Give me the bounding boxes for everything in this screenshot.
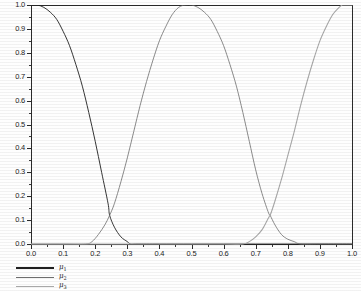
x-tick-minor [79,245,80,247]
y-tick-label: 0.6 [15,97,25,105]
x-tick-minor [304,245,305,247]
x-tick-minor [143,245,144,247]
x-tick-label: 0.5 [187,250,197,258]
legend-label-mu3: μ3 [59,281,67,291]
curve-μ2 [31,5,352,244]
legend: μ1 μ2 μ3 [16,264,126,290]
x-tick-label: 0.2 [90,250,100,258]
x-tick-minor [208,245,209,247]
y-tick-label: 0.2 [15,192,25,200]
legend-item-mu3[interactable]: μ3 [16,282,126,290]
plot-area [31,5,353,245]
y-tick-label: 0.8 [15,49,25,57]
y-tick-label: 0.7 [15,73,25,81]
x-tick-label: 0.1 [58,250,68,258]
x-tick-minor [336,245,337,247]
y-axis: 0.00.10.20.30.40.50.60.70.80.91.0 [0,0,31,245]
x-tick-label: 0.9 [315,250,325,258]
y-tick-label: 0.0 [15,240,25,248]
curve-group [31,5,353,245]
x-tick-minor [240,245,241,247]
y-tick-label: 0.9 [15,25,25,33]
x-tick-minor [175,245,176,247]
y-tick-label: 0.1 [15,216,25,224]
x-tick-label: 0.6 [219,250,229,258]
x-tick-label: 0.4 [154,250,164,258]
x-tick-label: 0.3 [122,250,132,258]
legend-swatch-mu3 [16,286,54,287]
legend-item-mu1[interactable]: μ1 [16,264,126,272]
legend-swatch-mu2 [16,277,54,278]
x-axis: 0.00.10.20.30.40.50.60.70.80.91.0 [31,245,353,261]
y-tick-label: 0.5 [15,121,25,129]
legend-swatch-mu1 [16,267,54,268]
x-tick-minor [272,245,273,247]
x-tick-label: 0.0 [26,250,36,258]
x-tick-minor [47,245,48,247]
curve-μ1 [31,5,352,244]
x-tick-minor [111,245,112,247]
legend-item-mu2[interactable]: μ2 [16,273,126,281]
x-tick-label: 1.0 [347,250,357,258]
membership-function-chart: 0.00.10.20.30.40.50.60.70.80.91.0 0.00.1… [0,0,361,291]
curves-svg [31,5,353,245]
y-tick-label: 0.3 [15,169,25,177]
x-tick-label: 0.7 [251,250,261,258]
x-tick-label: 0.8 [283,250,293,258]
curve-μ3 [31,5,352,244]
y-tick-label: 0.4 [15,145,25,153]
y-tick-label: 1.0 [15,1,25,9]
